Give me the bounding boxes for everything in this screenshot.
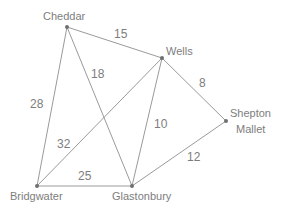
- graph-diagram: Cheddar Wells Shepton Mallet Bridgwater …: [0, 0, 285, 210]
- weight-cheddar-bridgwater: 28: [30, 97, 44, 111]
- weight-wells-shepton: 8: [199, 76, 206, 90]
- node-shepton-mallet: [224, 119, 228, 123]
- label-wells: Wells: [166, 45, 193, 57]
- label-cheddar: Cheddar: [43, 10, 86, 22]
- label-glastonbury: Glastonbury: [112, 190, 172, 202]
- weight-cheddar-wells: 15: [114, 27, 128, 41]
- weight-wells-bridgwater: 32: [57, 137, 71, 151]
- edge-cheddar-glastonbury: [67, 27, 132, 186]
- weight-shepton-glastonbury: 12: [187, 150, 201, 164]
- node-cheddar: [65, 25, 69, 29]
- edge-wells-shepton: [162, 58, 226, 121]
- node-glastonbury: [130, 184, 134, 188]
- label-bridgwater: Bridgwater: [10, 190, 63, 202]
- node-bridgwater: [35, 184, 39, 188]
- weight-wells-glastonbury: 10: [154, 117, 168, 131]
- node-wells: [160, 56, 164, 60]
- edge-shepton-glastonbury: [132, 121, 226, 186]
- weight-bridgwater-glastonbury: 25: [78, 169, 92, 183]
- label-shepton-line1: Shepton: [230, 107, 271, 119]
- label-shepton-line2: Mallet: [236, 123, 265, 135]
- weight-cheddar-glastonbury: 18: [91, 67, 105, 81]
